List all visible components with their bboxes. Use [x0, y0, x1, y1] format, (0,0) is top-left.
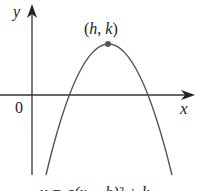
x-axis-label: x [179, 99, 188, 118]
vertex-label: (h, k) [84, 20, 118, 38]
y-axis-label: y [11, 3, 21, 21]
parabola-curve [46, 44, 172, 175]
origin-label: 0 [15, 99, 23, 116]
equation-caption: y = a(x − h)² + k [38, 184, 150, 191]
parabola-diagram: y x 0 (h, k) y = a(x − h)² + k [0, 0, 203, 191]
vertex-point [105, 41, 111, 47]
